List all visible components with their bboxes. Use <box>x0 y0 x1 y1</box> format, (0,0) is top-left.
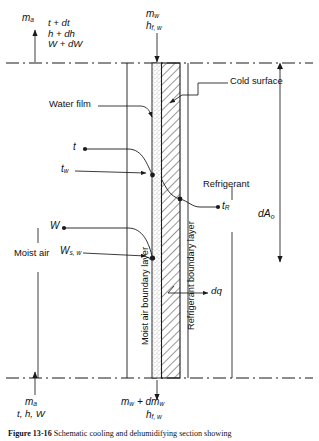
diagram-canvas <box>0 0 319 441</box>
label-outlet-water-mass: mw + dmw <box>121 396 164 408</box>
label-t-refrigerant: tR <box>222 200 230 212</box>
node-t-refrigerant <box>216 205 220 209</box>
cold-surface-band <box>162 63 181 378</box>
figure-caption: Figure 13-16 Schematic cooling and dehum… <box>8 429 313 439</box>
temperature-profile-curve <box>85 149 218 207</box>
label-humidity-air: W <box>50 220 59 231</box>
leader-w-saturated <box>83 253 146 256</box>
node-t-air <box>83 147 87 151</box>
label-moist-air-boundary-layer: Moist air boundary layer <box>140 247 150 345</box>
caption-label: Figure 13-16 <box>8 429 52 438</box>
leader-t-wall <box>75 171 146 173</box>
caption-text: Schematic cooling and dehumidifying sect… <box>54 429 232 438</box>
label-inlet-air-mass: ma <box>25 396 37 408</box>
node-t-wall <box>150 173 155 178</box>
label-outlet-water-enthalpy: hf, w <box>146 409 162 421</box>
label-outlet-air-mass: ma <box>22 12 34 24</box>
node-w-saturated <box>150 255 155 260</box>
label-refrigerant: Refrigerant <box>203 179 249 190</box>
water-film-band <box>152 63 162 378</box>
label-t-wall: tw <box>61 163 69 175</box>
label-refrigerant-boundary-layer: Refrigerant boundary layer <box>186 221 196 330</box>
label-heat-flux: dq <box>211 286 222 297</box>
label-water-film: Water film <box>49 99 91 110</box>
label-moist-air: Moist air <box>14 248 49 259</box>
node-w-air <box>62 226 66 230</box>
label-inlet-air-properties: t, h, W <box>17 409 45 420</box>
node-t-surface <box>178 197 183 202</box>
label-humidity-saturated: Ws, w <box>60 245 81 257</box>
wall-assembly <box>152 63 180 378</box>
label-inlet-water-mass: mw <box>146 8 159 20</box>
temperature-profile-nodes <box>83 147 220 209</box>
label-cold-surface: Cold surface <box>230 76 283 87</box>
label-t-air: t <box>73 141 76 152</box>
label-area: dAo <box>258 208 275 220</box>
figure-container: ma t + dt h + dh W + dW mw hf, w Cold su… <box>0 0 319 441</box>
leader-water-film <box>98 106 152 117</box>
label-inlet-water-enthalpy: hf, w <box>146 20 162 32</box>
label-outlet-air-properties: t + dt h + dh W + dW <box>48 18 82 50</box>
